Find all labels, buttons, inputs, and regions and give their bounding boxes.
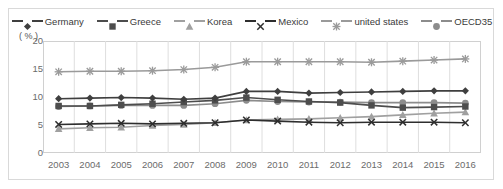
legend-label: OECD35 (454, 16, 492, 27)
legend-item-oecd35[interactable]: OECD35 (421, 16, 492, 27)
legend-item-germany[interactable]: Germany (12, 16, 84, 27)
legend-star-marker (332, 17, 341, 26)
star-marker (333, 22, 341, 30)
x-axis-tick: 2009 (230, 159, 262, 170)
legend-item-korea[interactable]: Korea (174, 16, 232, 27)
star-marker (242, 58, 250, 66)
diamond-marker (86, 95, 93, 102)
chart-legend: GermanyGreeceKoreaMexicounited statesOEC… (9, 12, 495, 30)
x-axis-tick: 2013 (356, 159, 388, 170)
star-marker (399, 57, 407, 65)
x-axis-tick: 2003 (43, 159, 75, 170)
square-marker (118, 102, 124, 108)
star-marker (430, 56, 438, 64)
chart-frame: GermanyGreeceKoreaMexicounited statesOEC… (8, 8, 494, 180)
x-marker (258, 23, 264, 29)
x-axis-tick: 2014 (387, 159, 419, 170)
diamond-marker (274, 88, 281, 95)
legend-line-left (12, 20, 23, 22)
x-axis-tick: 2008 (199, 159, 231, 170)
square-marker (368, 102, 374, 108)
star-marker (86, 67, 94, 75)
legend-line-right (194, 20, 205, 22)
star-marker (180, 66, 188, 74)
legend-line-left (245, 20, 256, 22)
y-axis-tick: 20 (15, 35, 43, 46)
star-marker (305, 58, 313, 66)
legend-item-united-states[interactable]: united states (321, 16, 408, 27)
diamond-marker (337, 89, 344, 96)
legend-line-left (421, 20, 432, 22)
square-marker (55, 103, 61, 109)
square-marker (400, 104, 406, 110)
triangle-marker (186, 22, 194, 29)
legend-line-right (117, 20, 128, 22)
diamond-marker (243, 88, 250, 95)
legend-circle-marker (432, 17, 441, 26)
x-axis-tick: 2015 (418, 159, 450, 170)
x-axis-tick: 2012 (324, 159, 356, 170)
legend-triangle-marker (185, 17, 194, 26)
x-axis-tick: 2005 (105, 159, 137, 170)
y-axis-tick: 5 (15, 119, 43, 130)
square-marker (337, 99, 343, 105)
y-axis-tick: 15 (15, 63, 43, 74)
star-marker (211, 63, 219, 71)
plot-area (43, 41, 481, 153)
legend-label: Korea (207, 16, 232, 27)
x-axis-tick: 2016 (449, 159, 481, 170)
x-axis-tick: 2004 (74, 159, 106, 170)
star-marker (55, 68, 63, 76)
legend-x-marker (256, 17, 265, 26)
legend-line-right (341, 20, 352, 22)
legend-diamond-marker (23, 17, 32, 26)
diamond-marker (368, 88, 375, 95)
legend-square-marker (108, 17, 117, 26)
legend-line-left (97, 20, 108, 22)
square-marker (87, 103, 93, 109)
x-axis-tick: 2006 (137, 159, 169, 170)
legend-label: Germany (45, 16, 84, 27)
star-marker (368, 58, 376, 66)
x-axis-tick: 2011 (293, 159, 325, 170)
y-axis-tick: 10 (15, 91, 43, 102)
legend-line-left (321, 20, 332, 22)
diamond-marker (305, 89, 312, 96)
star-marker (149, 67, 157, 75)
star-marker (461, 55, 469, 63)
diamond-marker (399, 88, 406, 95)
y-axis-tick: 0 (15, 147, 43, 158)
legend-line-right (32, 20, 43, 22)
diamond-marker (24, 22, 31, 29)
legend-item-mexico[interactable]: Mexico (245, 16, 308, 27)
star-marker (336, 58, 344, 66)
x-axis-tick: 2007 (168, 159, 200, 170)
diamond-marker (430, 87, 437, 94)
circle-marker (433, 23, 440, 30)
square-marker (462, 103, 468, 109)
star-marker (274, 58, 282, 66)
square-marker (306, 98, 312, 104)
square-marker (109, 23, 115, 29)
legend-line-right (265, 20, 276, 22)
legend-label: Greece (130, 16, 161, 27)
legend-line-left (174, 20, 185, 22)
legend-line-right (441, 20, 452, 22)
legend-item-greece[interactable]: Greece (97, 16, 161, 27)
legend-label: united states (354, 16, 408, 27)
chart-series-svg (43, 41, 481, 153)
x-axis-tick: 2010 (262, 159, 294, 170)
square-marker (431, 104, 437, 110)
diamond-marker (118, 94, 125, 101)
square-marker (274, 97, 280, 103)
star-marker (117, 67, 125, 75)
diamond-marker (55, 95, 62, 102)
legend-label: Mexico (278, 16, 308, 27)
diamond-marker (462, 87, 469, 94)
square-marker (243, 94, 249, 100)
